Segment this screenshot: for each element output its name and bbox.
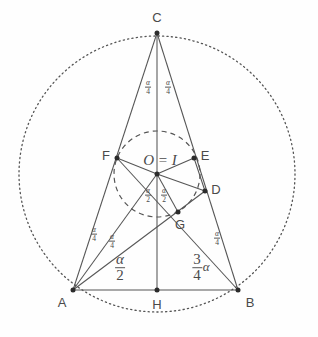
point-label-F: F — [102, 149, 110, 162]
point-label-H: H — [152, 298, 161, 311]
point-label-C: C — [152, 11, 161, 24]
geometry-diagram: CABHFEDGO = Iα4α4α2α2α4α4α4α234α — [0, 0, 318, 337]
angle-label-alpha-over-2-O-right: α2 — [161, 187, 167, 204]
angle-label-alpha-over-4-A-upper: α4 — [91, 226, 97, 243]
diagram-canvas — [0, 0, 318, 337]
angle-label-alpha-over-4-C-right: α4 — [165, 79, 171, 96]
point-G — [176, 210, 181, 215]
point-H — [155, 288, 160, 293]
point-C — [155, 31, 160, 36]
angle-label-alpha-over-4-A-lower: α4 — [109, 233, 115, 250]
point-label-B: B — [246, 296, 255, 309]
point-label-D: D — [211, 183, 220, 196]
point-O — [155, 172, 160, 177]
point-E — [192, 156, 197, 161]
angle-label-alpha-over-4-C-left: α4 — [145, 79, 151, 96]
segment-ED — [194, 158, 205, 191]
point-D — [203, 189, 208, 194]
point-B — [236, 288, 241, 293]
angle-label-alpha-over-4-B: α4 — [214, 230, 220, 247]
angle-label-alpha-over-2-base: α2 — [115, 252, 125, 284]
point-F — [115, 156, 120, 161]
point-label-O: O = I — [143, 153, 176, 168]
point-A — [71, 288, 76, 293]
point-label-E: E — [201, 149, 210, 162]
angle-label-three-quarters-alpha: 34α — [192, 252, 209, 284]
angle-label-alpha-over-2-O-left: α2 — [145, 187, 151, 204]
point-label-A: A — [58, 296, 67, 309]
point-label-G: G — [175, 218, 185, 231]
